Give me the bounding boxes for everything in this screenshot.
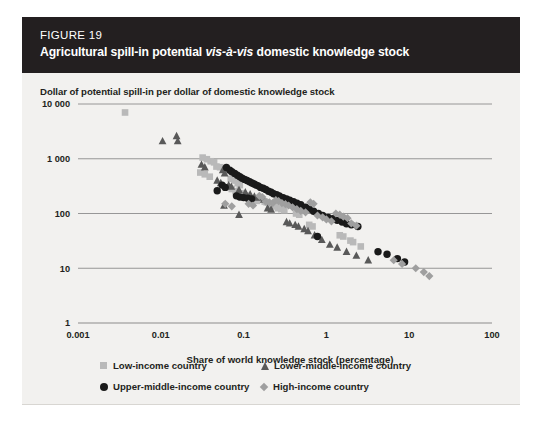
figure-header: FIGURE 19 Agricultural spill-in potentia… — [22, 17, 520, 73]
x-tick-labels: 0.0010.010.1110100 — [67, 330, 500, 340]
y-tick-label: 100 — [55, 209, 70, 219]
x-tick-label: 0.001 — [67, 330, 90, 340]
figure-title-part1: Agricultural spill-in potential — [40, 45, 205, 59]
data-point — [314, 233, 321, 240]
data-point — [352, 251, 360, 258]
data-point — [326, 240, 334, 247]
figure-title-part2: domestic knowledge stock — [253, 45, 409, 59]
legend-row: Low-income country Lower-middle-income c… — [22, 355, 520, 376]
y-tick-labels: 1101001 00010 000 — [42, 99, 70, 328]
series-circle — [214, 164, 409, 266]
data-point — [350, 239, 357, 246]
y-tick-label: 1 000 — [47, 154, 70, 164]
triangle-marker-icon — [261, 362, 269, 370]
legend-item-lower-middle-income[interactable]: Lower-middle-income country — [257, 360, 411, 371]
legend-label-upper-middle-income: Upper-middle-income country — [113, 381, 249, 392]
chart-legend: Low-income country Lower-middle-income c… — [22, 355, 520, 397]
figure-title-italic: vis-à-vis — [205, 45, 253, 59]
data-point — [357, 243, 364, 250]
data-point — [343, 248, 351, 255]
data-point — [222, 184, 229, 191]
legend-item-high-income[interactable]: High-income country — [257, 381, 369, 392]
data-point — [412, 264, 420, 272]
series-diamond — [221, 192, 433, 280]
data-point — [235, 211, 243, 218]
data-point — [340, 233, 347, 240]
figure-card: FIGURE 19 Agricultural spill-in potentia… — [22, 17, 520, 405]
legend-label-high-income: High-income country — [273, 381, 369, 392]
data-point — [333, 243, 341, 250]
data-point-layer — [122, 109, 434, 280]
x-tick-label: 0.01 — [152, 330, 170, 340]
card-bottom-divider — [22, 404, 520, 405]
x-tick-label: 0.1 — [237, 330, 250, 340]
figure-title: Agricultural spill-in potential vis-à-vi… — [40, 45, 502, 60]
scatter-plot-svg: 1101001 00010 000 0.0010.010.1110100 Sha… — [22, 73, 520, 368]
circle-marker-icon — [100, 383, 108, 391]
diamond-marker-icon — [260, 382, 268, 390]
gridlines — [78, 104, 492, 268]
data-point — [159, 137, 167, 144]
legend-item-upper-middle-income[interactable]: Upper-middle-income country — [22, 381, 257, 392]
legend-label-low-income: Low-income country — [113, 360, 207, 371]
data-point — [281, 207, 288, 214]
data-point — [309, 223, 316, 230]
data-point — [122, 109, 129, 116]
x-tick-label: 100 — [484, 330, 499, 340]
data-point — [173, 132, 181, 139]
data-point — [364, 256, 372, 263]
y-tick-label: 1 — [65, 318, 70, 328]
x-tick-label: 10 — [404, 330, 414, 340]
data-point — [206, 173, 213, 180]
legend-item-low-income[interactable]: Low-income country — [22, 360, 257, 371]
figure-number-label: FIGURE 19 — [40, 28, 502, 42]
x-tick-label: 1 — [324, 330, 329, 340]
y-tick-label: 10 — [60, 264, 70, 274]
data-point — [383, 251, 390, 258]
square-marker-icon — [100, 362, 107, 369]
legend-row: Upper-middle-income country High-income … — [22, 376, 520, 397]
scatter-plot: 1101001 00010 000 0.0010.010.1110100 Sha… — [22, 73, 520, 368]
figure-body: Dollar of potential spill-in per dollar … — [22, 73, 520, 405]
data-point — [214, 187, 221, 194]
y-tick-label: 10 000 — [42, 99, 70, 109]
data-point — [374, 248, 381, 255]
legend-label-lower-middle-income: Lower-middle-income country — [274, 360, 411, 371]
